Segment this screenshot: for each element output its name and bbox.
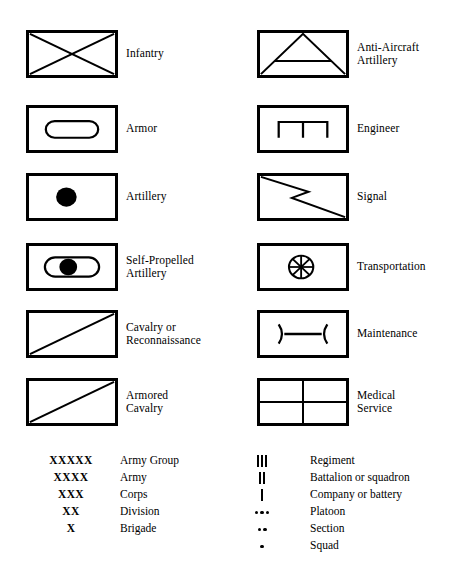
cavalry-diagonal-icon [29, 313, 115, 355]
symbol-label-line: Armored [126, 389, 226, 403]
symbol-box-anti-aircraft-artillery [257, 30, 349, 78]
symbol-label-line: Self-Propelled [126, 254, 226, 268]
echelon-label: Squad [310, 537, 339, 554]
symbol-label-line: Reconnaissance [126, 334, 226, 348]
symbol-label-line: Medical [357, 389, 454, 403]
symbol-label-line: Armor [126, 122, 226, 136]
symbol-label-line: Service [357, 402, 454, 416]
symbol-label-line: Transportation [357, 260, 454, 274]
symbol-label-line: Cavalry [126, 402, 226, 416]
echelon-label: Platoon [310, 503, 345, 520]
echelon-column-right: Regiment Battalion or squadron Company o… [236, 452, 454, 554]
symbol-label-line: Cavalry or [126, 321, 226, 335]
medical-service-cross-icon [260, 381, 346, 423]
echelon-symbol: XX [34, 503, 108, 520]
echelon-symbol-regiment [236, 452, 288, 470]
anti-aircraft-artillery-icon [260, 33, 346, 75]
symbol-label-signal: Signal [357, 173, 454, 221]
symbol-label-line: Signal [357, 190, 454, 204]
symbol-box-maintenance [257, 310, 349, 358]
symbol-label-line: Anti-Aircraft [357, 41, 454, 55]
symbol-row-infantry: Infantry [26, 30, 226, 88]
symbol-row-cavalry: Cavalry or Reconnaissance [26, 310, 226, 368]
symbol-row-armored-cavalry: Armored Cavalry [26, 378, 226, 436]
symbol-label-cavalry: Cavalry or Reconnaissance [126, 310, 226, 358]
symbol-label-line: Engineer [357, 122, 454, 136]
armor-oval-icon [29, 108, 115, 150]
symbol-label-artillery: Artillery [126, 173, 226, 221]
symbol-box-signal [257, 173, 349, 221]
symbol-box-artillery [26, 173, 118, 221]
echelon-size-table: XXXXX Army Group XXXX Army XXX Corps XX … [0, 452, 454, 584]
echelon-row: XXX Corps [34, 486, 234, 503]
echelon-row: X Brigade [34, 520, 234, 537]
symbol-box-self-propelled-artillery [26, 243, 118, 291]
symbol-label-engineer: Engineer [357, 105, 454, 153]
vertical-bars-icon [259, 470, 265, 487]
echelon-label: Division [120, 503, 160, 520]
symbol-label-armor: Armor [126, 105, 226, 153]
echelon-symbol-section [236, 520, 288, 538]
symbol-label-anti-aircraft-artillery: Anti-Aircraft Artillery [357, 30, 454, 78]
dots-icon [260, 538, 264, 555]
symbol-box-armor [26, 105, 118, 153]
echelon-column-left: XXXXX Army Group XXXX Army XXX Corps XX … [34, 452, 234, 537]
echelon-row: Platoon [236, 503, 454, 520]
engineer-icon [260, 108, 346, 150]
symbol-label-armored-cavalry: Armored Cavalry [126, 378, 226, 426]
symbol-row-maintenance: Maintenance [257, 310, 454, 368]
symbol-label-line: Infantry [126, 47, 226, 61]
symbol-row-transportation: Transportation [257, 243, 454, 301]
echelon-row: Battalion or squadron [236, 469, 454, 486]
symbol-label-infantry: Infantry [126, 30, 226, 78]
echelon-symbol: XXXXX [34, 452, 108, 469]
echelon-symbol-company [236, 486, 288, 504]
echelon-row: Company or battery [236, 486, 454, 503]
symbol-row-engineer: Engineer [257, 105, 454, 163]
echelon-symbol: XXX [34, 486, 108, 503]
symbol-label-maintenance: Maintenance [357, 310, 454, 358]
symbol-label-line: Artillery [126, 190, 226, 204]
echelon-symbol: X [34, 520, 108, 537]
artillery-dot-icon [29, 176, 115, 218]
echelon-row: Squad [236, 537, 454, 554]
echelon-row: XXXXX Army Group [34, 452, 234, 469]
symbol-label-line: Maintenance [357, 327, 454, 341]
echelon-symbol-platoon [236, 503, 288, 521]
echelon-label: Company or battery [310, 486, 402, 503]
echelon-label: Brigade [120, 520, 156, 537]
dots-icon [258, 521, 267, 538]
echelon-row: XX Division [34, 503, 234, 520]
symbol-row-medical-service: Medical Service [257, 378, 454, 436]
echelon-label: Army [120, 469, 147, 486]
signal-zigzag-icon [260, 176, 346, 218]
echelon-row: XXXX Army [34, 469, 234, 486]
echelon-label: Section [310, 520, 345, 537]
armored-cavalry-icon [29, 381, 115, 423]
symbol-box-armored-cavalry [26, 378, 118, 426]
symbol-label-self-propelled-artillery: Self-Propelled Artillery [126, 243, 226, 291]
symbol-row-armor: Armor [26, 105, 226, 163]
echelon-label: Regiment [310, 452, 355, 469]
symbol-box-medical-service [257, 378, 349, 426]
echelon-label: Army Group [120, 452, 179, 469]
echelon-symbol-battalion [236, 469, 288, 487]
vertical-bars-icon [261, 487, 263, 504]
echelon-label: Corps [120, 486, 147, 503]
symbol-box-cavalry [26, 310, 118, 358]
infantry-cross-icon [29, 33, 115, 75]
symbol-row-self-propelled-artillery: Self-Propelled Artillery [26, 243, 226, 301]
symbol-box-infantry [26, 30, 118, 78]
symbol-label-medical-service: Medical Service [357, 378, 454, 426]
symbol-box-engineer [257, 105, 349, 153]
symbol-box-transportation [257, 243, 349, 291]
echelon-symbol: XXXX [34, 469, 108, 486]
vertical-bars-icon [257, 453, 267, 470]
symbol-row-anti-aircraft-artillery: Anti-Aircraft Artillery [257, 30, 454, 88]
echelon-row: Regiment [236, 452, 454, 469]
symbol-label-line: Artillery [126, 267, 226, 281]
symbol-label-line: Artillery [357, 54, 454, 68]
transportation-wheel-icon [260, 246, 346, 288]
maintenance-icon [260, 313, 346, 355]
echelon-symbol-squad [236, 537, 288, 555]
